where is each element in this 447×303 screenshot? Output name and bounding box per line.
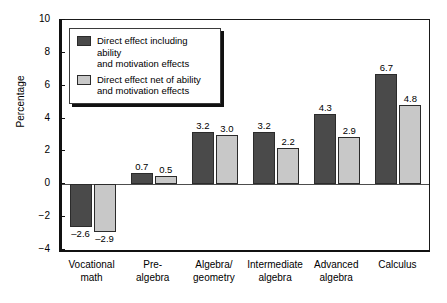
- y-axis-tick-label: 2: [44, 144, 50, 155]
- bar-value-label: 3.0: [210, 123, 244, 134]
- bar-direct-effect-net[interactable]: [399, 105, 421, 184]
- y-axis-tick-label: −2: [39, 210, 50, 221]
- bar-group: 3.22.2: [253, 20, 299, 250]
- bar-value-label: 4.3: [308, 102, 342, 113]
- bar-value-label: 3.2: [247, 120, 281, 131]
- y-axis-tick-label: 4: [44, 112, 50, 123]
- bar-direct-effect-net[interactable]: [155, 176, 177, 184]
- bar-direct-effect-net[interactable]: [216, 135, 238, 184]
- bar-value-label: 6.7: [369, 62, 403, 73]
- legend-label: Direct effect including ability and moti…: [97, 35, 213, 70]
- bar-direct-effect-net[interactable]: [277, 148, 299, 184]
- bar-value-label: –2.9: [88, 233, 122, 244]
- y-axis-tick-mark: [59, 85, 65, 86]
- zero-line: [62, 184, 429, 185]
- y-axis-tick-mark: [59, 249, 65, 250]
- bar-group: 4.32.9: [314, 20, 360, 250]
- y-axis-tick-mark: [59, 118, 65, 119]
- bar-direct-effect-including[interactable]: [192, 132, 214, 185]
- bar-direct-effect-net[interactable]: [338, 137, 360, 185]
- y-axis-tick-label: 0: [44, 177, 50, 188]
- legend-entry[interactable]: Direct effect net of ability and motivat…: [77, 74, 213, 97]
- bar-group: 6.74.8: [375, 20, 421, 250]
- bar-direct-effect-including[interactable]: [375, 74, 397, 184]
- legend-swatch: [77, 75, 91, 85]
- bar-value-label: 2.2: [271, 136, 305, 147]
- bar-direct-effect-net[interactable]: [94, 184, 116, 232]
- bar-chart-figure: Percentage 1086420−2−4–2.6–2.90.70.53.23…: [0, 0, 447, 303]
- legend-entry[interactable]: Direct effect including ability and moti…: [77, 35, 213, 70]
- y-axis-tick-mark: [59, 52, 65, 53]
- y-axis-tick-label: 8: [44, 46, 50, 57]
- bar-value-label: 4.8: [393, 93, 427, 104]
- y-axis-tick-label: 10: [39, 13, 50, 24]
- x-axis-tick-label: Calculus: [349, 259, 445, 272]
- y-axis-title: Percentage: [15, 52, 26, 152]
- bar-value-label: 0.5: [149, 164, 183, 175]
- legend-label: Direct effect net of ability and motivat…: [97, 74, 201, 97]
- y-axis-tick-mark: [59, 216, 65, 217]
- legend-swatch: [77, 36, 91, 46]
- y-axis-tick-mark: [59, 19, 65, 20]
- y-axis-tick-mark: [59, 150, 65, 151]
- bar-value-label: 2.9: [332, 125, 366, 136]
- y-axis-tick-label: 6: [44, 79, 50, 90]
- y-axis-tick-label: −4: [39, 243, 50, 254]
- bar-direct-effect-including[interactable]: [70, 184, 92, 227]
- chart-legend: Direct effect including ability and moti…: [69, 28, 221, 104]
